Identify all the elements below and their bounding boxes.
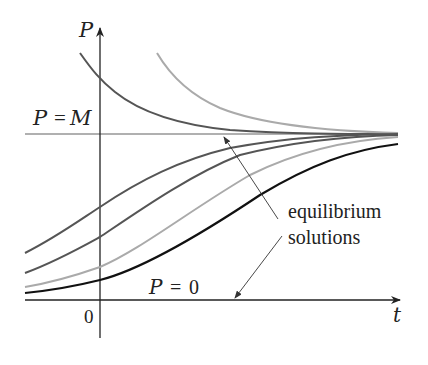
label-pm-eq: = (54, 106, 66, 130)
curve-decreasing-dark (80, 53, 398, 134)
origin-label: 0 (84, 306, 94, 327)
label-p0-eq: = (170, 276, 181, 298)
logistic-diagram: P t 0 P = M P = 0 equilibrium solutions (0, 0, 428, 365)
label-p0-lhs: P (148, 275, 163, 299)
label-pm-lhs: P (32, 106, 48, 130)
label-pm-rhs: M (69, 106, 92, 130)
y-axis-label: P (78, 18, 94, 42)
label-p-equals-zero: P = 0 (148, 275, 199, 299)
curve-decreasing-light (157, 53, 398, 133)
callout-label-line1: equilibrium (288, 200, 382, 223)
callout-label-line2: solutions (288, 226, 360, 248)
label-p-equals-m: P = M (32, 106, 92, 130)
callout-arrow-to-zero (235, 236, 282, 298)
label-p0-rhs: 0 (189, 276, 199, 298)
x-axis-label: t (393, 303, 402, 327)
